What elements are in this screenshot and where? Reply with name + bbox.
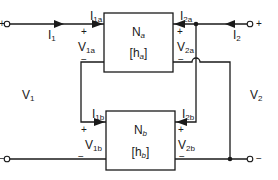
v1b-minus-sign: − [78, 152, 84, 162]
label-V2: V2 [250, 89, 262, 105]
port1-minus-sign: − [0, 154, 5, 164]
port2-minus-sign: − [256, 154, 262, 164]
v2b-minus-sign: − [179, 152, 185, 162]
terminal-port2-minus [247, 156, 253, 162]
junction-dot-bottom [228, 157, 233, 162]
port1-plus-sign: + [0, 19, 5, 29]
arrow-I2-icon [225, 20, 235, 28]
label-I2b: I2b [182, 108, 194, 124]
label-V1: V1 [22, 89, 34, 105]
label-I1b: I1b [92, 108, 104, 124]
terminal-port1-minus [4, 156, 10, 162]
label-V1b: V1b [85, 139, 102, 155]
v1b-plus-sign: + [81, 125, 87, 135]
network-a-name: Na [104, 25, 173, 40]
arrow-I1-icon [54, 20, 64, 28]
port2-plus-sign: + [256, 19, 262, 29]
v1a-plus-sign: + [81, 27, 87, 37]
network-b-params: [hb] [106, 145, 175, 160]
label-I2a: I2a [180, 10, 192, 26]
junction-dot-top [194, 22, 199, 27]
v1a-minus-sign: − [81, 55, 87, 65]
network-a-box [104, 13, 173, 72]
terminal-port1-plus [4, 21, 10, 27]
network-b-name: Nb [106, 123, 175, 138]
label-I1a: I1a [90, 10, 102, 26]
terminal-port2-plus [247, 21, 253, 27]
network-a-params: [ha] [104, 46, 173, 61]
v2a-minus-sign: − [178, 55, 184, 65]
label-I2: I2 [233, 29, 241, 45]
network-b-box [106, 111, 175, 170]
label-I1: I1 [48, 29, 56, 45]
v2a-plus-sign: + [177, 27, 183, 37]
v2b-plus-sign: + [178, 125, 184, 135]
